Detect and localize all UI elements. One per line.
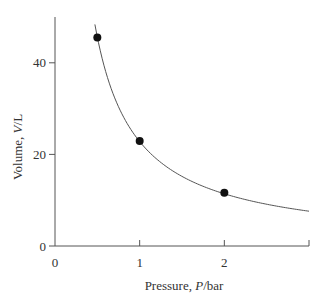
y-axis-label: Volume, V/L xyxy=(10,114,25,180)
x-tick-label: 1 xyxy=(136,255,143,270)
y-tick-label: 0 xyxy=(40,239,47,254)
axes xyxy=(49,17,309,246)
tick-labels: 01202040 xyxy=(33,55,228,270)
data-point xyxy=(93,34,101,42)
fit-curve xyxy=(95,24,309,211)
data-point xyxy=(220,189,228,197)
x-axis-label: Pressure, P/bar xyxy=(145,278,224,293)
x-tick-label: 0 xyxy=(52,255,59,270)
data-points xyxy=(93,34,228,197)
y-tick-label: 20 xyxy=(33,147,46,162)
x-tick-label: 2 xyxy=(221,255,228,270)
y-tick-label: 40 xyxy=(33,55,46,70)
data-point xyxy=(136,137,144,145)
boyle-law-chart: 01202040 Pressure, P/bar Volume, V/L xyxy=(0,0,323,301)
